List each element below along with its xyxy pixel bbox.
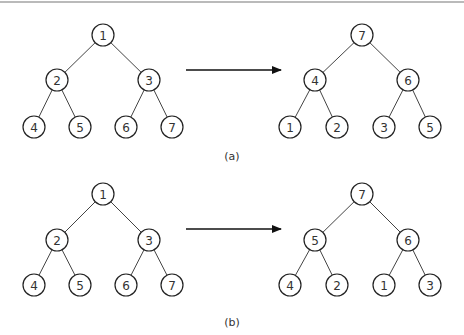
tree-node: 3 bbox=[373, 116, 395, 138]
node-label: 6 bbox=[122, 121, 130, 135]
node-label: 7 bbox=[358, 29, 366, 43]
tree-node: 1 bbox=[92, 183, 114, 205]
tree-node: 7 bbox=[161, 116, 183, 138]
panel-caption: (a) bbox=[224, 150, 239, 163]
node-label: 2 bbox=[333, 279, 341, 293]
node-label: 5 bbox=[76, 279, 84, 293]
node-label: 2 bbox=[333, 121, 341, 135]
node-label: 5 bbox=[76, 121, 84, 135]
node-label: 4 bbox=[311, 74, 319, 88]
tree-node: 1 bbox=[373, 274, 395, 296]
tree-node: 6 bbox=[115, 116, 137, 138]
tree-node: 3 bbox=[138, 229, 160, 251]
before-tree: 1234567 bbox=[23, 24, 183, 138]
tree-node: 2 bbox=[326, 274, 348, 296]
tree-node: 7 bbox=[351, 183, 373, 205]
tree-node: 6 bbox=[397, 229, 419, 251]
tree-node: 6 bbox=[115, 274, 137, 296]
node-label: 3 bbox=[380, 121, 388, 135]
after-tree: 7564213 bbox=[279, 183, 441, 296]
after-tree: 7461235 bbox=[279, 24, 441, 138]
node-label: 1 bbox=[380, 279, 388, 293]
node-label: 4 bbox=[286, 279, 294, 293]
node-label: 7 bbox=[358, 188, 366, 202]
tree-node: 5 bbox=[69, 274, 91, 296]
tree-node: 2 bbox=[46, 229, 68, 251]
tree-node: 3 bbox=[138, 69, 160, 91]
heap-diagram: 12345677461235(a)12345677564213(b) bbox=[0, 0, 464, 335]
tree-node: 1 bbox=[92, 24, 114, 46]
tree-node: 3 bbox=[419, 274, 441, 296]
tree-node: 7 bbox=[161, 274, 183, 296]
node-label: 5 bbox=[311, 234, 319, 248]
tree-node: 5 bbox=[419, 116, 441, 138]
tree-node: 1 bbox=[279, 116, 301, 138]
node-label: 1 bbox=[286, 121, 294, 135]
tree-node: 2 bbox=[46, 69, 68, 91]
panel-caption: (b) bbox=[224, 316, 240, 329]
panel-a: 12345677461235(a) bbox=[23, 24, 441, 163]
node-label: 3 bbox=[145, 74, 153, 88]
tree-node: 4 bbox=[23, 116, 45, 138]
node-label: 1 bbox=[99, 188, 107, 202]
node-label: 4 bbox=[30, 121, 38, 135]
tree-node: 4 bbox=[23, 274, 45, 296]
node-label: 6 bbox=[404, 74, 412, 88]
node-label: 6 bbox=[404, 234, 412, 248]
tree-node: 5 bbox=[304, 229, 326, 251]
node-label: 7 bbox=[168, 279, 176, 293]
node-label: 3 bbox=[426, 279, 434, 293]
panel-b: 12345677564213(b) bbox=[23, 183, 441, 329]
node-label: 7 bbox=[168, 121, 176, 135]
node-label: 6 bbox=[122, 279, 130, 293]
node-label: 1 bbox=[99, 29, 107, 43]
tree-node: 5 bbox=[69, 116, 91, 138]
tree-node: 7 bbox=[351, 24, 373, 46]
before-tree: 1234567 bbox=[23, 183, 183, 296]
tree-node: 2 bbox=[326, 116, 348, 138]
tree-node: 4 bbox=[279, 274, 301, 296]
tree-node: 6 bbox=[397, 69, 419, 91]
node-label: 2 bbox=[53, 234, 61, 248]
node-label: 3 bbox=[145, 234, 153, 248]
node-label: 4 bbox=[30, 279, 38, 293]
node-label: 5 bbox=[426, 121, 434, 135]
node-label: 2 bbox=[53, 74, 61, 88]
tree-node: 4 bbox=[304, 69, 326, 91]
